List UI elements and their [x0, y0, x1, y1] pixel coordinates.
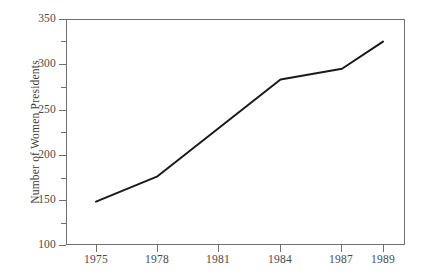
y-tick-200 — [59, 155, 66, 156]
x-tick-1981 — [218, 245, 219, 252]
y-minor-tick-175 — [61, 178, 66, 179]
x-tick-label-1989: 1989 — [371, 253, 395, 265]
y-tick-100 — [59, 245, 66, 246]
x-tick-label-1984: 1984 — [268, 253, 292, 265]
x-tick-1975 — [96, 245, 97, 252]
x-tick-1978 — [157, 245, 158, 252]
y-tick-label-250: 250 — [38, 103, 56, 115]
y-minor-tick-225 — [61, 132, 66, 133]
y-axis-title: Number of Women Presidents — [26, 19, 44, 245]
x-tick-label-1975: 1975 — [84, 253, 108, 265]
y-tick-label-200: 200 — [38, 148, 56, 160]
x-tick-label-1978: 1978 — [145, 253, 169, 265]
y-minor-tick-125 — [61, 223, 66, 224]
x-tick-label-1987: 1987 — [329, 253, 353, 265]
x-tick-label-1981: 1981 — [206, 253, 230, 265]
y-tick-350 — [59, 19, 66, 20]
x-tick-1984 — [280, 245, 281, 252]
y-minor-tick-325 — [61, 41, 66, 42]
x-tick-1989 — [383, 245, 384, 252]
y-tick-label-300: 300 — [38, 57, 56, 69]
y-tick-250 — [59, 110, 66, 111]
plot-frame — [66, 19, 405, 245]
x-tick-1987 — [341, 245, 342, 252]
y-tick-150 — [59, 200, 66, 201]
y-tick-label-100: 100 — [38, 238, 56, 250]
y-minor-tick-275 — [61, 87, 66, 88]
y-tick-label-150: 150 — [38, 193, 56, 205]
y-tick-label-350: 350 — [38, 12, 56, 24]
y-tick-300 — [59, 64, 66, 65]
chart-screenshot: Number of Women Presidents 350 300 250 2… — [0, 0, 437, 280]
